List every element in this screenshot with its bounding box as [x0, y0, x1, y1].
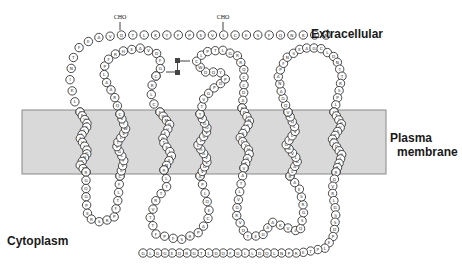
svg-text:K: K: [302, 33, 305, 38]
residue: E: [242, 31, 250, 39]
svg-text:S: S: [301, 218, 304, 223]
residue: T: [196, 110, 204, 118]
svg-text:R: R: [189, 234, 192, 239]
svg-text:G: G: [312, 46, 315, 51]
residue: G: [82, 176, 90, 184]
svg-text:E: E: [86, 211, 89, 216]
residue: G: [82, 193, 90, 201]
residue: T: [198, 102, 206, 110]
residue: R: [152, 197, 160, 205]
svg-text:G: G: [84, 178, 87, 183]
svg-text:V: V: [243, 166, 246, 171]
residue: V: [240, 164, 248, 172]
disulfide-bond: [166, 58, 190, 75]
residue: F: [156, 57, 164, 65]
svg-text:G: G: [84, 194, 87, 199]
residue: P: [160, 232, 168, 240]
residue: A: [107, 86, 115, 94]
svg-text:G: G: [163, 251, 166, 256]
residue: E: [84, 37, 92, 45]
svg-text:N: N: [336, 60, 339, 65]
cho-label-2: CHO: [217, 14, 230, 20]
extracellular-label: Extracellular: [311, 27, 383, 41]
residue: C: [152, 72, 160, 80]
svg-text:R: R: [302, 202, 305, 207]
svg-text:E: E: [200, 33, 203, 38]
residue: G: [299, 209, 307, 217]
svg-text:R: R: [235, 213, 238, 218]
svg-text:R: R: [335, 170, 338, 175]
residue: P: [82, 201, 90, 209]
residue: A: [95, 33, 103, 41]
residue: R: [87, 215, 95, 223]
svg-text:S: S: [334, 220, 337, 225]
residue: T: [129, 31, 137, 39]
residue: F: [75, 43, 83, 51]
plasma-membrane-label-line1: Plasma: [390, 131, 432, 145]
svg-text:A: A: [97, 35, 100, 40]
svg-text:S: S: [334, 213, 337, 218]
svg-text:D: D: [332, 54, 335, 59]
residue: T: [146, 213, 154, 221]
svg-text:G: G: [228, 51, 231, 56]
svg-text:V: V: [239, 220, 242, 225]
residue: G: [139, 249, 147, 257]
residue: G: [156, 64, 164, 72]
svg-text:W: W: [198, 65, 202, 70]
residue: V: [106, 32, 114, 40]
svg-text:T: T: [131, 33, 135, 38]
svg-text:E: E: [130, 47, 133, 52]
svg-text:D: D: [242, 228, 245, 233]
residue: R: [111, 50, 119, 58]
residue: Q: [203, 197, 211, 205]
residue: K: [299, 31, 307, 39]
svg-text:R: R: [154, 198, 157, 203]
svg-text:C: C: [207, 216, 210, 221]
svg-text:T: T: [198, 112, 202, 117]
svg-text:T: T: [148, 215, 152, 220]
svg-text:S: S: [338, 88, 341, 93]
residue: L: [201, 189, 209, 197]
residue: S: [254, 31, 262, 39]
residue: D: [240, 89, 248, 97]
residue: A: [239, 96, 247, 104]
residue: L: [236, 188, 244, 196]
svg-text:R: R: [106, 218, 109, 223]
svg-text:A: A: [110, 87, 113, 92]
residue: N: [288, 31, 296, 39]
svg-text:V: V: [331, 184, 334, 189]
residue: T: [114, 197, 122, 205]
residue: S: [95, 218, 103, 226]
residue: Q: [240, 65, 248, 73]
svg-text:T: T: [308, 249, 312, 254]
residue: H: [119, 47, 127, 55]
residue: K: [276, 221, 284, 229]
svg-text:G: G: [235, 205, 238, 210]
cytoplasm-label: Cytoplasm: [7, 234, 68, 248]
svg-text:C: C: [155, 74, 158, 79]
svg-text:C: C: [320, 46, 323, 51]
residue: T: [244, 232, 252, 240]
residue: Q: [296, 224, 304, 232]
glycosylation-site-1: CHO: [114, 14, 127, 30]
svg-text:H: H: [122, 49, 125, 54]
residue: P: [185, 31, 193, 39]
residue: E: [128, 45, 136, 53]
svg-text:Y: Y: [165, 33, 169, 38]
svg-text:V: V: [287, 226, 290, 231]
residue: F: [169, 234, 177, 242]
svg-text:C: C: [243, 75, 246, 80]
svg-text:R: R: [90, 217, 93, 222]
residue: L: [220, 31, 228, 39]
residue: T: [237, 180, 245, 188]
svg-text:R: R: [295, 251, 298, 256]
residue: R: [82, 168, 90, 176]
svg-text:S: S: [256, 33, 259, 38]
residue: P: [198, 180, 206, 188]
residue: P: [203, 47, 211, 55]
svg-text:S: S: [292, 51, 295, 56]
svg-text:C: C: [234, 33, 237, 38]
svg-text:V: V: [237, 197, 240, 202]
svg-text:R: R: [185, 251, 188, 256]
svg-text:D: D: [258, 251, 261, 256]
